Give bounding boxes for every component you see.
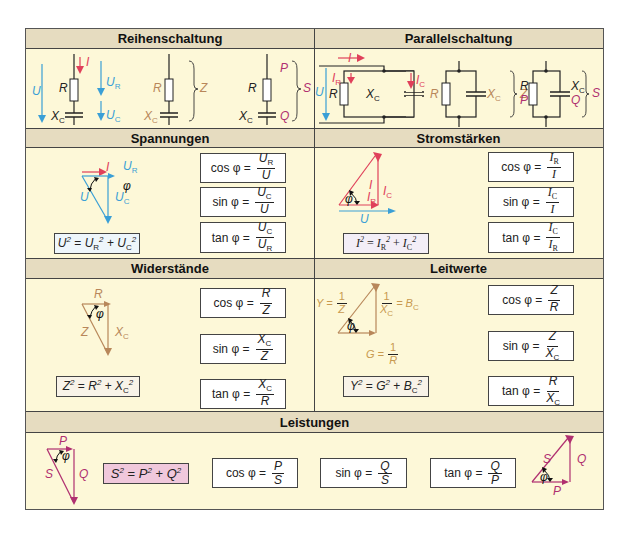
label-u: U xyxy=(32,84,41,98)
voltages-header: Spannungen xyxy=(26,128,314,148)
label-xc-parallel-brown: XC xyxy=(487,87,501,103)
label-r: R xyxy=(59,81,68,95)
power-title: Leistungen xyxy=(280,415,349,430)
voltage-pythagoras: U2 = UR2 + UC2 xyxy=(58,235,136,252)
current-cos-box: cos φ = IRI xyxy=(488,152,574,182)
label-g-conductance: G = 1R xyxy=(366,342,398,366)
current-pythagoras: I2 = IR2 + IC2 xyxy=(356,235,416,252)
conductance-cos-box: cos φ = ZR xyxy=(488,285,574,315)
label-r-parallel-power: R xyxy=(520,79,529,93)
label-xc: XC xyxy=(51,109,65,125)
parallel-circuit-diagrams xyxy=(314,49,603,128)
label-q-parallel: Q xyxy=(571,93,580,107)
power-pythagoras-box: S2 = P2 + Q2 xyxy=(103,463,189,484)
label-uc: UC xyxy=(106,108,120,124)
label-r-resistance: R xyxy=(94,287,103,301)
conductances-header: Leitwerte xyxy=(314,258,603,279)
currents-title: Stromstärken xyxy=(417,131,501,146)
label-p: P xyxy=(280,61,288,75)
label-s-power-left: S xyxy=(45,467,53,481)
label-ur: UR xyxy=(106,75,120,91)
series-circuit-diagrams xyxy=(26,49,314,128)
resistance-pythagoras-box: Z2 = R2 + XC2 xyxy=(56,376,140,397)
label-xc-parallel: XC xyxy=(366,87,380,103)
parallel-header: Parallelschaltung xyxy=(314,29,603,49)
label-r-parallel-brown: R xyxy=(430,87,439,101)
current-pythagoras-box: I2 = IR2 + IC2 xyxy=(343,233,429,254)
label-p-parallel: P xyxy=(520,93,528,107)
label-phi-resistance: φ xyxy=(96,307,104,321)
label-u-voltage: U xyxy=(80,190,89,204)
label-p-power-right: P xyxy=(553,484,561,498)
label-ic: IC xyxy=(416,73,425,89)
voltages-title: Spannungen xyxy=(131,131,210,146)
label-xc-power: XC xyxy=(239,109,253,125)
resistance-sin-box: sin φ = XCZ xyxy=(200,334,286,364)
label-phi-conductance: φ xyxy=(347,319,355,333)
label-ir-current: IR xyxy=(367,190,376,206)
label-i-parallel: I xyxy=(348,51,351,65)
voltage-tan-box: tan φ = UCUR xyxy=(200,222,286,253)
label-xc-resistance: XC xyxy=(115,325,129,341)
label-y-conductance: Y = 1Z xyxy=(316,291,347,315)
label-s-power-right: S xyxy=(543,452,551,466)
label-i: I xyxy=(86,55,89,69)
power-header: Leistungen xyxy=(26,411,603,433)
label-phi-power-right: φ xyxy=(540,470,548,484)
voltage-pythagoras-box: U2 = UR2 + UC2 xyxy=(54,233,140,254)
conductance-pythagoras: Y2 = G2 + BC2 xyxy=(350,378,422,395)
conductance-tan-box: tan φ = RXC xyxy=(488,376,574,406)
label-s-parallel: S xyxy=(592,86,600,100)
current-sin-box: sin φ = ICI xyxy=(488,187,574,217)
label-ic-current: IC xyxy=(383,184,392,200)
label-q-power-right: Q xyxy=(577,452,586,466)
voltage-sin-box: sin φ = UCU xyxy=(200,187,286,217)
label-r-parallel: R xyxy=(329,87,338,101)
label-xc-brown: XC xyxy=(144,109,158,125)
label-u-parallel: U xyxy=(315,85,324,99)
series-title: Reihenschaltung xyxy=(118,31,223,46)
resistances-header: Widerstände xyxy=(26,258,314,279)
label-s: S xyxy=(303,81,311,95)
label-q: Q xyxy=(280,109,289,123)
label-uc-voltage: UC xyxy=(115,190,129,206)
label-phi-power-left: φ xyxy=(62,449,70,463)
resistance-cos-box: cos φ = RZ xyxy=(200,288,286,318)
label-u-current: U xyxy=(360,212,369,226)
label-bc-conductance: 1XC = BC xyxy=(380,291,419,318)
label-q-power-left: Q xyxy=(79,467,88,481)
label-p-power-left: P xyxy=(59,434,67,448)
power-tan-box: tan φ = QP xyxy=(430,458,516,488)
voltage-cos-box: cos φ = URU xyxy=(200,153,286,183)
parallel-title: Parallelschaltung xyxy=(405,31,513,46)
power-cos-box: cos φ = PS xyxy=(212,458,298,488)
conductance-pythagoras-box: Y2 = G2 + BC2 xyxy=(343,376,429,397)
conductances-title: Leitwerte xyxy=(430,261,487,276)
label-z-resistance: Z xyxy=(81,325,88,339)
current-tan-box: tan φ = ICIR xyxy=(488,222,574,253)
resistances-title: Widerstände xyxy=(131,261,209,276)
label-r-brown: R xyxy=(153,81,162,95)
currents-header: Stromstärken xyxy=(314,128,603,148)
label-z: Z xyxy=(200,81,207,95)
label-phi-current: φ xyxy=(345,192,353,206)
label-r-power: R xyxy=(248,81,257,95)
formula-table: Reihenschaltung Parallelschaltung Spannu… xyxy=(25,28,604,510)
conductance-sin-box: sin φ = ZXC xyxy=(488,331,574,361)
resistance-tan-box: tan φ = XCR xyxy=(200,379,286,409)
power-pythagoras: S2 = P2 + Q2 xyxy=(111,466,182,481)
resistance-pythagoras: Z2 = R2 + XC2 xyxy=(63,378,134,395)
label-ur-voltage: UR xyxy=(123,159,137,175)
label-i-voltage: I xyxy=(106,160,109,174)
label-ir: IR xyxy=(332,71,341,87)
series-header: Reihenschaltung xyxy=(26,29,314,49)
power-sin-box: sin φ = QS xyxy=(320,458,407,488)
